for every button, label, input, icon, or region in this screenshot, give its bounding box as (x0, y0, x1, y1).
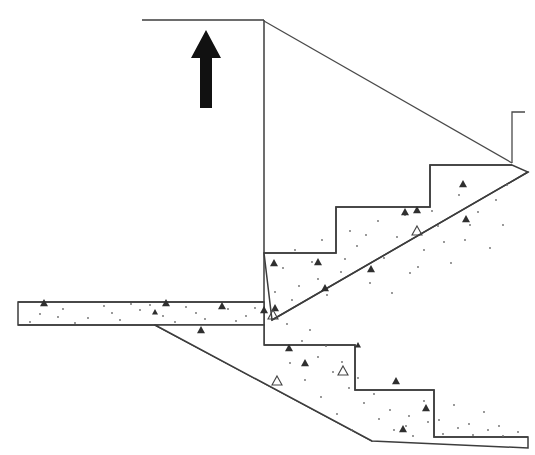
hatch-dot (464, 239, 466, 241)
hatch-dot (286, 323, 288, 325)
hatch-dot (396, 236, 398, 238)
hatch-dot (405, 425, 407, 427)
hatch-dot (377, 220, 379, 222)
hatch-dot (393, 429, 395, 431)
landing-slab (18, 302, 264, 325)
hatch-dot (332, 371, 334, 373)
hatch-dot (373, 393, 375, 395)
hatch-dot (195, 312, 197, 314)
hatch-dot (517, 431, 519, 433)
hatch-dot (489, 247, 491, 249)
hatch-dot (254, 307, 256, 309)
hatch-dot (472, 434, 474, 436)
hatch-dot (185, 306, 187, 308)
hatch-dot (389, 409, 391, 411)
hatch-dot (423, 400, 425, 402)
hatch-dot (340, 271, 342, 273)
hatch-dot (468, 423, 470, 425)
hatch-dot (304, 379, 306, 381)
hatch-dot (348, 387, 350, 389)
hatch-dot (453, 404, 455, 406)
section-canvas (0, 0, 535, 455)
hatch-dot (321, 239, 323, 241)
hatch-dot (437, 225, 439, 227)
hatch-dot (111, 312, 113, 314)
hatch-dot (309, 329, 311, 331)
hatch-dot (336, 413, 338, 415)
hatch-dot (483, 411, 485, 413)
hatch-dot (282, 267, 284, 269)
hatch-dot (431, 210, 433, 212)
hatch-dot (365, 234, 367, 236)
hatch-dot (502, 224, 504, 226)
hatch-dot (57, 316, 59, 318)
hatch-dot (363, 402, 365, 404)
hatch-dot (62, 308, 64, 310)
hatch-dot (469, 224, 471, 226)
hatch-dot (458, 194, 460, 196)
hatch-dot (320, 396, 322, 398)
hatch-dot (357, 377, 359, 379)
hatch-dot (325, 345, 327, 347)
hatch-dot (378, 418, 380, 420)
hatch-dot (291, 299, 293, 301)
hatch-dot (317, 356, 319, 358)
hatch-dot (227, 308, 229, 310)
hatch-dot (351, 429, 353, 431)
hatch-dot (417, 266, 419, 268)
hatch-dot (423, 249, 425, 251)
hatch-dot (487, 429, 489, 431)
hatch-dot (344, 258, 346, 260)
hatch-dot (29, 321, 31, 323)
hatch-dot (409, 272, 411, 274)
hatch-dot (149, 304, 151, 306)
hatch-dot (477, 211, 479, 213)
hatch-dot (502, 435, 504, 437)
drawing-background (0, 0, 535, 455)
hatch-dot (235, 320, 237, 322)
hatch-dot (39, 313, 41, 315)
hatch-dot (442, 433, 444, 435)
hatch-dot (301, 340, 303, 342)
hatch-dot (294, 249, 296, 251)
hatch-dot (311, 261, 313, 263)
hatch-dot (130, 303, 132, 305)
hatch-dot (498, 425, 500, 427)
hatch-dot (369, 282, 371, 284)
hatch-dot (289, 362, 291, 364)
hatch-dot (495, 199, 497, 201)
hatch-dot (341, 361, 343, 363)
hatch-dot (245, 315, 247, 317)
hatch-dot (450, 262, 452, 264)
hatch-dot (119, 319, 121, 321)
hatch-dot (356, 245, 358, 247)
hatch-dot (74, 322, 76, 324)
hatch-dot (506, 184, 508, 186)
hatch-dot (326, 294, 328, 296)
stair-section-drawing (0, 0, 535, 455)
hatch-dot (317, 278, 319, 280)
hatch-dot (412, 435, 414, 437)
hatch-dot (457, 427, 459, 429)
hatch-dot (274, 291, 276, 293)
hatch-dot (298, 285, 300, 287)
hatch-dot (408, 415, 410, 417)
hatch-dot (391, 292, 393, 294)
hatch-dot (443, 241, 445, 243)
hatch-dot (204, 318, 206, 320)
hatch-dot (174, 321, 176, 323)
hatch-dot (383, 257, 385, 259)
hatch-dot (427, 421, 429, 423)
hatch-dot (103, 305, 105, 307)
hatch-dot (349, 230, 351, 232)
hatch-dot (438, 419, 440, 421)
hatch-dot (139, 309, 141, 311)
hatch-dot (87, 317, 89, 319)
hatch-dot (162, 315, 164, 317)
